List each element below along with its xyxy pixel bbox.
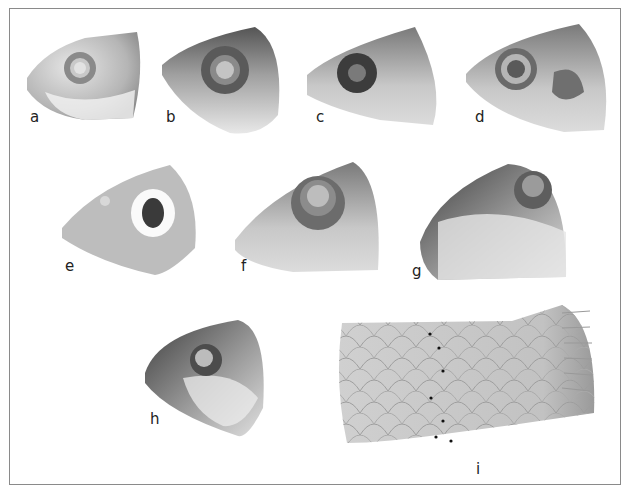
panel-label: a xyxy=(30,108,39,126)
panel-c xyxy=(305,25,445,130)
scale-body-image xyxy=(332,303,597,448)
panel-e xyxy=(60,163,200,275)
fish-head-image xyxy=(60,163,200,275)
fish-head-image xyxy=(143,318,268,438)
fish-head-image xyxy=(305,25,445,130)
panel-f xyxy=(233,160,383,275)
panel-b xyxy=(160,25,285,135)
panel-label: h xyxy=(150,410,160,428)
panel-label: i xyxy=(476,460,480,478)
panel-d xyxy=(464,22,609,134)
fish-head-image xyxy=(418,162,568,282)
fish-head-image xyxy=(233,160,383,275)
panel-h xyxy=(143,318,268,438)
panel-a xyxy=(25,30,145,125)
panel-label: g xyxy=(412,262,422,280)
fish-head-image xyxy=(25,30,145,125)
fish-head-image xyxy=(464,22,609,134)
fish-head-image xyxy=(160,25,285,135)
panel-label: c xyxy=(316,108,324,126)
panel-label: f xyxy=(241,257,246,275)
panel-label: b xyxy=(166,108,176,126)
panel-g xyxy=(418,162,568,282)
panel-label: e xyxy=(65,257,74,275)
panel-i xyxy=(332,303,597,448)
panel-label: d xyxy=(475,108,485,126)
